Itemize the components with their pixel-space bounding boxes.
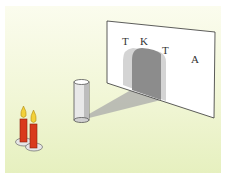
candle-front — [26, 110, 43, 151]
flame-icon — [21, 106, 26, 118]
screen-letter-2: K — [140, 35, 148, 47]
cylinder-object — [74, 80, 89, 123]
screen-letter-3: T — [162, 44, 169, 56]
flame-icon — [31, 110, 36, 123]
screen-letter-4: A — [191, 53, 199, 65]
screen-letter-1: T — [122, 35, 129, 47]
shadow-diagram: T K T A — [0, 0, 226, 179]
